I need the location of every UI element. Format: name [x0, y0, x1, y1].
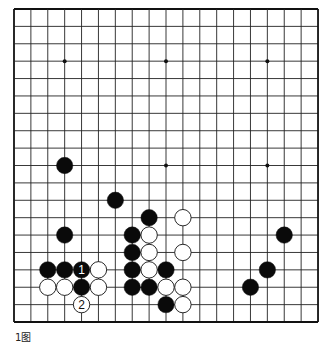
star-point	[265, 59, 269, 63]
stone-disc	[141, 279, 157, 295]
black-stone[interactable]	[107, 192, 123, 208]
stone-disc	[276, 227, 292, 243]
white-stone[interactable]	[141, 262, 157, 278]
white-stone[interactable]	[56, 279, 72, 295]
stone-disc	[158, 279, 174, 295]
stone-disc	[175, 279, 191, 295]
black-stone[interactable]	[158, 296, 174, 312]
black-stone[interactable]	[141, 279, 157, 295]
stone-disc	[242, 279, 258, 295]
white-stone[interactable]	[90, 262, 106, 278]
white-stone[interactable]: 2	[73, 296, 89, 312]
white-stone[interactable]	[141, 227, 157, 243]
black-stone[interactable]: 1	[73, 262, 89, 278]
black-stone[interactable]	[124, 244, 140, 260]
white-stone[interactable]	[175, 296, 191, 312]
stone-disc	[56, 157, 72, 173]
black-stone[interactable]	[141, 209, 157, 225]
black-stone[interactable]	[124, 279, 140, 295]
diagram-caption: 1图	[15, 333, 31, 343]
stone-disc	[124, 227, 140, 243]
stone-disc	[90, 262, 106, 278]
move-number-label: 2	[78, 298, 85, 312]
stone-disc	[56, 227, 72, 243]
white-stone[interactable]	[175, 209, 191, 225]
black-stone[interactable]	[242, 279, 258, 295]
stone-disc	[158, 262, 174, 278]
white-stone[interactable]	[175, 279, 191, 295]
black-stone[interactable]	[259, 262, 275, 278]
stone-disc	[259, 262, 275, 278]
stone-disc	[141, 262, 157, 278]
stone-disc	[141, 244, 157, 260]
stone-disc	[40, 279, 56, 295]
star-point	[164, 59, 168, 63]
white-stone[interactable]	[40, 279, 56, 295]
white-stone[interactable]	[158, 279, 174, 295]
stone-disc	[124, 244, 140, 260]
black-stone[interactable]	[56, 157, 72, 173]
black-stone[interactable]	[276, 227, 292, 243]
stone-disc	[141, 209, 157, 225]
stone-disc	[73, 279, 89, 295]
stone-disc	[40, 262, 56, 278]
black-stone[interactable]	[158, 262, 174, 278]
black-stone[interactable]	[56, 262, 72, 278]
white-stone[interactable]	[175, 244, 191, 260]
black-stone[interactable]	[124, 262, 140, 278]
stone-disc	[158, 296, 174, 312]
black-stone[interactable]	[40, 262, 56, 278]
black-stone[interactable]	[73, 279, 89, 295]
black-stone[interactable]	[124, 227, 140, 243]
stone-disc	[175, 296, 191, 312]
white-stone[interactable]	[141, 244, 157, 260]
move-number-label: 1	[78, 263, 85, 277]
white-stone[interactable]	[90, 279, 106, 295]
stone-disc	[175, 209, 191, 225]
stone-disc	[141, 227, 157, 243]
stone-disc	[56, 262, 72, 278]
star-point	[63, 59, 67, 63]
black-stone[interactable]	[56, 227, 72, 243]
star-point	[265, 164, 269, 168]
stone-disc	[175, 244, 191, 260]
star-point	[164, 164, 168, 168]
stone-disc	[124, 279, 140, 295]
stone-disc	[107, 192, 123, 208]
stone-disc	[90, 279, 106, 295]
stone-disc	[124, 262, 140, 278]
stone-disc	[56, 279, 72, 295]
